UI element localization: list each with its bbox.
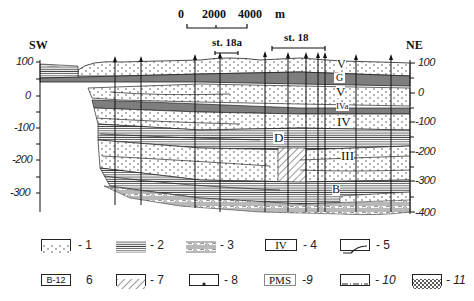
right-axis-tick: -300 bbox=[415, 174, 435, 186]
unit-label-g: G bbox=[334, 73, 345, 83]
unit-label-iii: III bbox=[341, 150, 354, 162]
legend-swatch-crosshatch bbox=[412, 274, 442, 286]
right-axis-tick: -200 bbox=[415, 145, 435, 157]
left-axis-tick: -300 bbox=[10, 186, 30, 198]
legend-label: - 8 bbox=[224, 273, 238, 287]
legend-swatch-dot bbox=[189, 274, 219, 286]
right-axis-tick: 0 bbox=[418, 86, 424, 98]
station-18-label: st. 18 bbox=[284, 31, 308, 43]
unit-label-iva: IVa bbox=[336, 102, 349, 111]
direction-sw: SW bbox=[29, 38, 48, 53]
legend-label: - 3 bbox=[220, 238, 234, 252]
legend-label: - 10 bbox=[375, 273, 396, 287]
legend-swatch-sand bbox=[41, 239, 71, 251]
legend-label: - 11 bbox=[446, 273, 466, 287]
right-axis-tick: -400 bbox=[415, 206, 435, 218]
scale-label-2000: 2000 bbox=[202, 7, 226, 22]
legend-label: - 5 bbox=[376, 238, 390, 252]
legend-swatch-dashdot bbox=[340, 274, 370, 286]
scale-bar-line bbox=[187, 24, 247, 28]
scale-unit: m bbox=[275, 7, 285, 22]
unit-label-b: B bbox=[332, 184, 340, 195]
station-18a-label: st. 18a bbox=[212, 36, 242, 48]
legend-label: 6 bbox=[86, 273, 93, 287]
legend-swatch-boundary bbox=[340, 239, 370, 251]
direction-ne: NE bbox=[406, 38, 423, 53]
legend-label: - 2 bbox=[150, 238, 164, 252]
right-axis-tick: 100 bbox=[418, 56, 435, 68]
legend-swatch-pms: PMS bbox=[264, 274, 296, 286]
left-axis-tick: 0 bbox=[25, 89, 31, 101]
legend-swatch-lenses bbox=[186, 239, 216, 251]
scale-label-4000: 4000 bbox=[238, 7, 262, 22]
scale-label-0: 0 bbox=[178, 7, 184, 22]
legend-label: - 4 bbox=[303, 238, 317, 252]
unit-label-iv: IV bbox=[337, 116, 351, 128]
left-axis-tick: 100 bbox=[16, 55, 33, 67]
right-axis-tick: -100 bbox=[415, 115, 435, 127]
legend-swatch-roman-numeral: IV bbox=[265, 239, 297, 251]
left-axis-tick: -100 bbox=[14, 121, 34, 133]
right-axis bbox=[410, 60, 415, 214]
unit-label-v-mid: V bbox=[336, 86, 345, 98]
legend-swatch-sample: B-12 bbox=[41, 274, 71, 286]
legend-label: -9 bbox=[302, 273, 313, 287]
left-axis bbox=[36, 60, 40, 212]
legend-swatch-hatch bbox=[116, 274, 146, 286]
legend-label: - 1 bbox=[78, 238, 92, 252]
unit-label-v-top: V bbox=[337, 59, 346, 70]
legend-label: - 7 bbox=[150, 273, 164, 287]
legend-swatch-clay bbox=[116, 239, 146, 251]
unit-label-d: D bbox=[273, 132, 284, 144]
left-axis-tick: -200 bbox=[12, 153, 32, 165]
strata-layers bbox=[40, 58, 410, 215]
